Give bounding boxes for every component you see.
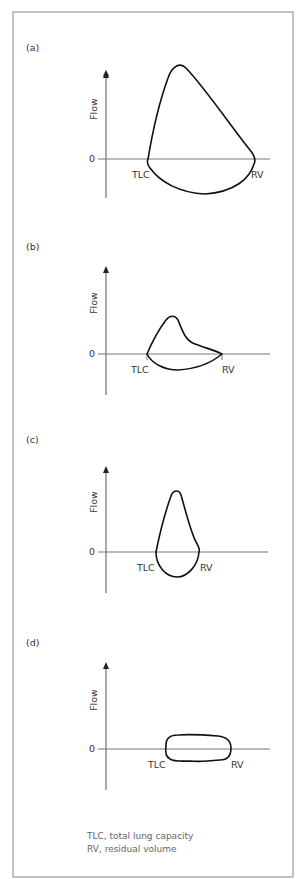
arrow-up-icon	[103, 71, 109, 78]
flow-volume-loops-figure: (a) Flow 0 TLC RV (b) Flow 0 TLC RV (c) …	[0, 0, 305, 879]
caption-line-tlc: TLC, total lung capacity	[86, 831, 194, 841]
flow-volume-loop-d	[166, 735, 231, 762]
arrow-up-icon	[103, 266, 109, 273]
y-axis-label-b: Flow	[88, 292, 99, 314]
panel-b: (b) Flow 0 TLC RV	[26, 241, 270, 395]
rv-label-d: RV	[231, 759, 244, 770]
panel-label-b: (b)	[26, 241, 39, 252]
panel-label-c: (c)	[26, 434, 39, 445]
panel-c: (c) Flow 0 TLC RV	[26, 434, 268, 593]
tlc-label-d: TLC	[147, 759, 166, 770]
rv-label-b: RV	[222, 364, 235, 375]
rv-label-a: RV	[251, 169, 264, 180]
arrow-up-icon	[103, 466, 109, 473]
flow-volume-loop-b	[147, 316, 222, 370]
figure-frame	[13, 12, 293, 877]
rv-label-c: RV	[200, 562, 213, 573]
y-axis-label-d: Flow	[88, 689, 99, 711]
tlc-label-b: TLC	[130, 364, 149, 375]
zero-label-d: 0	[89, 743, 95, 754]
y-axis-label-c: Flow	[88, 491, 99, 513]
zero-label-c: 0	[89, 546, 95, 557]
caption-line-rv: RV, residual volume	[87, 844, 177, 854]
tlc-label-a: TLC	[131, 169, 150, 180]
panel-label-a: (a)	[26, 42, 39, 53]
caption: TLC, total lung capacity RV, residual vo…	[86, 831, 194, 854]
panel-a: (a) Flow 0 TLC RV	[26, 42, 270, 198]
zero-label-b: 0	[89, 348, 95, 359]
zero-label-a: 0	[89, 153, 95, 164]
arrow-up-icon	[103, 662, 109, 669]
panel-label-d: (d)	[26, 637, 39, 648]
flow-volume-loop-a	[147, 65, 255, 194]
y-axis-label-a: Flow	[88, 98, 99, 120]
flow-volume-loop-c	[156, 491, 199, 577]
panel-d: (d) Flow 0 TLC RV	[26, 637, 270, 790]
tlc-label-c: TLC	[136, 562, 155, 573]
